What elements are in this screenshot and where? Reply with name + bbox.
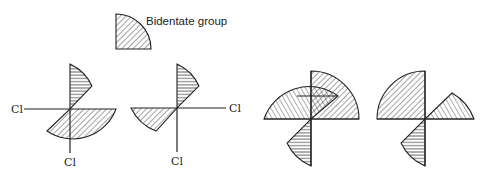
- structure-1: Cl Cl: [11, 64, 116, 169]
- cl-label-left: Cl: [11, 103, 23, 116]
- cl-label-bottom: Cl: [64, 156, 76, 169]
- bidentate-wedge-lower: [401, 119, 425, 166]
- bidentate-wedge-upper: [70, 64, 92, 109]
- bidentate-wedge-top-left: [377, 71, 425, 119]
- diagram-canvas: Bidentate group Cl Cl Cl Cl: [0, 0, 487, 180]
- cl-label-right: Cl: [229, 102, 241, 115]
- bidentate-wedge-lower: [47, 109, 116, 139]
- bidentate-wedge-right: [425, 93, 474, 119]
- bidentate-wedge-upper: [177, 64, 199, 108]
- legend: Bidentate group: [116, 14, 227, 49]
- bidentate-wedge-lower: [287, 119, 311, 166]
- structure-2: Cl Cl: [131, 64, 241, 168]
- structure-4: [377, 71, 474, 166]
- structure-3: [264, 71, 359, 166]
- bidentate-wedge-left: [131, 108, 177, 131]
- cl-label-bottom: Cl: [171, 155, 183, 168]
- legend-label: Bidentate group: [146, 15, 227, 27]
